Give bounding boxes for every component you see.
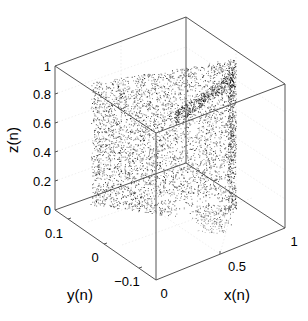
z-tick-labels: 0 0.2 0.4 0.6 0.8 1 <box>33 59 51 218</box>
y-axis-label: y(n) <box>67 286 93 303</box>
svg-text:−0.1: −0.1 <box>114 274 140 289</box>
axes-box <box>55 17 285 280</box>
svg-text:0.8: 0.8 <box>33 87 51 102</box>
svg-text:0: 0 <box>160 286 167 301</box>
svg-text:1: 1 <box>44 59 51 74</box>
svg-text:1: 1 <box>290 234 297 249</box>
svg-text:0.4: 0.4 <box>33 145 51 160</box>
svg-text:0: 0 <box>91 250 98 265</box>
svg-text:0.2: 0.2 <box>33 174 51 189</box>
svg-text:0.6: 0.6 <box>33 116 51 131</box>
svg-text:0.5: 0.5 <box>228 259 246 274</box>
svg-text:0: 0 <box>44 203 51 218</box>
grid <box>55 40 285 254</box>
point-cloud <box>91 59 237 233</box>
svg-text:0.1: 0.1 <box>45 226 63 241</box>
x-axis-label: x(n) <box>224 286 250 303</box>
z-axis-label: z(n) <box>4 127 21 153</box>
scatter3d-plot: 0 0.2 0.4 0.6 0.8 1 0.1 0 −0.1 0 0.5 1 z… <box>0 0 308 321</box>
